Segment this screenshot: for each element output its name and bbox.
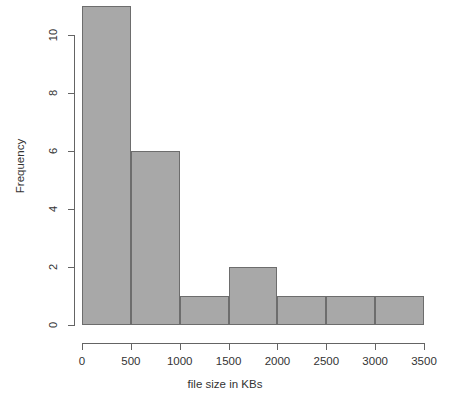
histogram-bar bbox=[131, 151, 180, 325]
y-axis-title: Frequency bbox=[14, 116, 26, 216]
x-axis-tick-label: 2000 bbox=[255, 355, 299, 367]
y-axis-tick-label: 2 bbox=[47, 256, 59, 278]
x-axis-tick bbox=[424, 343, 425, 350]
x-axis-title: file size in KBs bbox=[0, 378, 450, 390]
y-axis-tick bbox=[68, 267, 75, 268]
y-axis-tick bbox=[68, 93, 75, 94]
x-axis-tick bbox=[375, 343, 376, 350]
histogram-figure: 0246810 Frequency 0500100015002000250030… bbox=[0, 0, 450, 405]
y-axis-tick-label: 0 bbox=[47, 314, 59, 336]
plot-area bbox=[82, 35, 424, 325]
y-axis-tick bbox=[68, 209, 75, 210]
x-axis-tick bbox=[131, 343, 132, 350]
x-axis-tick bbox=[82, 343, 83, 350]
y-axis-tick-label: 8 bbox=[47, 82, 59, 104]
y-axis-tick-label: 6 bbox=[47, 140, 59, 162]
x-axis-tick-label: 1500 bbox=[207, 355, 251, 367]
x-axis-line bbox=[82, 343, 424, 344]
y-axis-tick bbox=[68, 151, 75, 152]
histogram-bar bbox=[82, 6, 131, 325]
x-axis-tick bbox=[277, 343, 278, 350]
y-axis-tick bbox=[68, 35, 75, 36]
histogram-bar bbox=[277, 296, 326, 325]
y-axis-tick-label: 4 bbox=[47, 198, 59, 220]
x-axis-tick-label: 2500 bbox=[304, 355, 348, 367]
x-axis-tick-label: 1000 bbox=[158, 355, 202, 367]
x-axis-tick bbox=[326, 343, 327, 350]
y-axis-tick bbox=[68, 325, 75, 326]
x-axis-tick-label: 3500 bbox=[402, 355, 446, 367]
histogram-bar bbox=[326, 296, 375, 325]
x-axis-tick-label: 3000 bbox=[353, 355, 397, 367]
histogram-bar bbox=[229, 267, 278, 325]
y-axis-tick-label: 10 bbox=[47, 24, 59, 46]
histogram-bar bbox=[180, 296, 229, 325]
x-axis-tick-label: 500 bbox=[109, 355, 153, 367]
x-axis-tick-label: 0 bbox=[60, 355, 104, 367]
x-axis-tick bbox=[180, 343, 181, 350]
x-axis-tick bbox=[229, 343, 230, 350]
histogram-bar bbox=[375, 296, 424, 325]
y-axis-line bbox=[74, 35, 75, 325]
